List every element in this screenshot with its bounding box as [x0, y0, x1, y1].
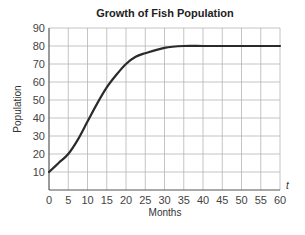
x-tick-label: 10: [81, 194, 93, 206]
y-tick-label: 90: [33, 22, 45, 34]
x-tick-label: 25: [139, 194, 151, 206]
x-axis-ticks: 051015202530354045505560: [46, 194, 286, 206]
x-tick-label: 15: [101, 194, 113, 206]
grid-lines: [49, 28, 280, 190]
line-chart: Growth of Fish Population 10203040506070…: [0, 0, 305, 235]
x-tick-label: 30: [158, 194, 170, 206]
y-axis-label: Population: [12, 85, 23, 132]
x-axis-label: Months: [149, 207, 182, 218]
x-tick-label: 50: [235, 194, 247, 206]
x-tick-label: 40: [197, 194, 209, 206]
x-tick-label: 5: [65, 194, 71, 206]
y-tick-label: 60: [33, 76, 45, 88]
x-tick-label: 0: [46, 194, 52, 206]
x-tick-label: 45: [216, 194, 228, 206]
y-tick-label: 70: [33, 58, 45, 70]
y-tick-label: 50: [33, 94, 45, 106]
y-axis-ticks: 102030405060708090: [33, 22, 45, 178]
x-tick-label: 55: [255, 194, 267, 206]
y-tick-label: 20: [33, 148, 45, 160]
y-tick-label: 40: [33, 112, 45, 124]
y-tick-label: 10: [33, 166, 45, 178]
y-tick-label: 30: [33, 130, 45, 142]
chart-title: Growth of Fish Population: [96, 7, 234, 19]
x-tick-label: 20: [120, 194, 132, 206]
y-tick-label: 80: [33, 40, 45, 52]
x-tick-label: 60: [274, 194, 286, 206]
x-axis-variable: t: [286, 180, 290, 191]
x-tick-label: 35: [178, 194, 190, 206]
